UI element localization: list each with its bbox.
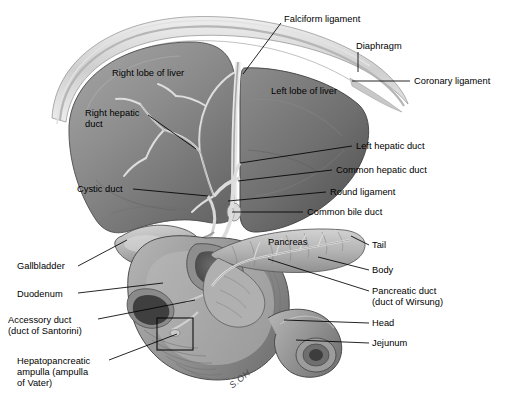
label-right-hepatic-duct: Right hepatic duct (85, 108, 140, 130)
anatomy-figure: Falciform ligamentDiaphragmCoronary liga… (0, 0, 517, 410)
label-body: Body (372, 265, 393, 276)
label-left-hepatic-duct: Left hepatic duct (356, 141, 425, 152)
label-cystic-duct: Cystic duct (77, 184, 123, 195)
label-jejunum: Jejunum (372, 338, 407, 349)
label-pancreas: Pancreas (268, 237, 307, 248)
label-gallbladder: Gallbladder (17, 261, 65, 272)
label-common-bile-duct: Common bile duct (307, 207, 382, 218)
anatomy-illustration (0, 0, 517, 410)
label-common-hepatic-duct: Common hepatic duct (336, 165, 427, 176)
label-falciform-ligament: Falciform ligament (284, 14, 360, 25)
label-round-ligament: Round ligament (330, 187, 395, 198)
jejunum-shape (268, 309, 342, 377)
label-pancreatic-duct: Pancreatic duct (duct of Wirsung) (372, 286, 443, 308)
label-right-lobe-of-liver: Right lobe of liver (112, 68, 184, 79)
label-accessory-duct: Accessory duct (duct of Santorini) (8, 315, 82, 337)
label-head: Head (372, 318, 394, 329)
label-diaphragm: Diaphragm (356, 41, 402, 52)
label-coronary-ligament: Coronary ligament (414, 76, 490, 87)
label-tail: Tail (372, 240, 386, 251)
label-duodenum: Duodenum (17, 289, 63, 300)
label-hepatopancreatic-ampulla: Hepatopancreatic ampulla (ampulla of Vat… (17, 356, 90, 390)
label-left-lobe-of-liver: Left lobe of liver (271, 86, 337, 97)
